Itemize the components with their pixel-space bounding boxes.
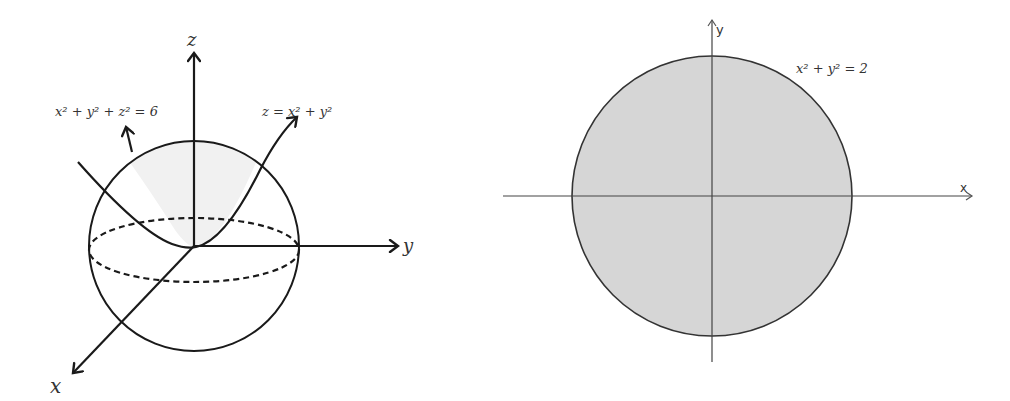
sphere-label-pointer — [126, 127, 132, 152]
z-axis-label: z — [186, 29, 197, 50]
paraboloid-equation-label: z = x² + y² — [261, 104, 332, 119]
y-axis-label-2d: y — [716, 22, 724, 37]
figure-canvas: z y x x² + y² + z² = 6 z = x² + y² x y x… — [0, 0, 1010, 401]
x-axis-label-2d: x — [960, 181, 967, 195]
y-axis-label: y — [402, 235, 414, 256]
left-3d-figure: z y x x² + y² + z² = 6 z = x² + y² — [50, 29, 414, 398]
circle-equation-label: x² + y² = 2 — [796, 61, 868, 76]
right-2d-figure: x y x² + y² = 2 — [503, 20, 972, 362]
x-axis-label: x — [50, 374, 61, 398]
sphere-equation-label: x² + y² + z² = 6 — [55, 104, 158, 119]
